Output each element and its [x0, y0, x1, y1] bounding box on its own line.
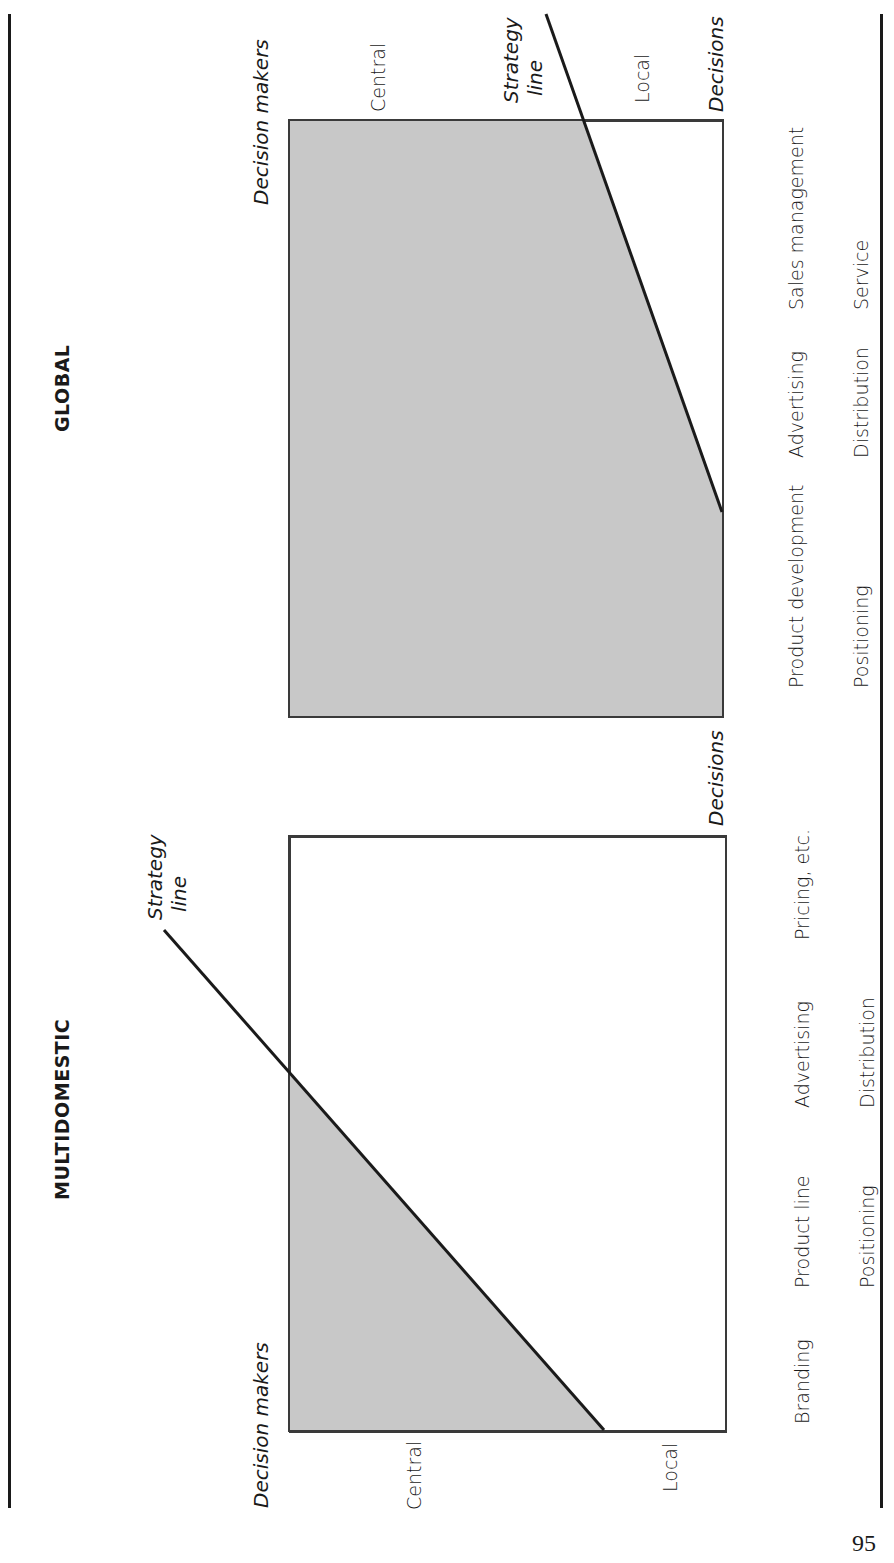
multidomestic-decision-group-2: Product line Positioning — [748, 1176, 894, 1288]
global-decisions-label: Decisions — [705, 16, 728, 112]
multidomestic-strategy-label-2: line — [168, 876, 191, 912]
global-decision-group-2: Advertising Distribution — [742, 347, 894, 458]
multidomestic-central-label: Central — [404, 1441, 426, 1510]
global-decision-group-1: Product development Positioning Segmenta… — [742, 484, 894, 688]
multidomestic-local-label: Local — [660, 1443, 682, 1492]
global-decision-makers-label: Decision makers — [250, 39, 273, 205]
global-strategy-label-2: line — [524, 60, 547, 96]
global-title: GLOBAL — [52, 345, 74, 432]
multidomestic-title: MULTIDOMESTIC — [52, 1019, 74, 1200]
global-central-label: Central — [368, 43, 390, 112]
global-central-shade — [290, 121, 722, 716]
multidomestic-decisions-label: Decisions — [705, 730, 728, 826]
multidomestic-decision-makers-label: Decision makers — [250, 1342, 273, 1508]
multidomestic-decision-group-4: Pricing, etc. — [748, 829, 835, 940]
multidomestic-decision-group-1: Branding — [748, 1339, 835, 1424]
global-strategy-label-1: Strategy — [500, 17, 523, 103]
global-local-label: Local — [632, 54, 654, 103]
global-decision-group-3: Sales management Service — [742, 127, 894, 310]
page-number: 95 — [852, 1530, 876, 1557]
multidomestic-decision-group-3: Advertising Distribution — [748, 997, 894, 1108]
multidomestic-strategy-label-1: Strategy — [144, 834, 167, 920]
